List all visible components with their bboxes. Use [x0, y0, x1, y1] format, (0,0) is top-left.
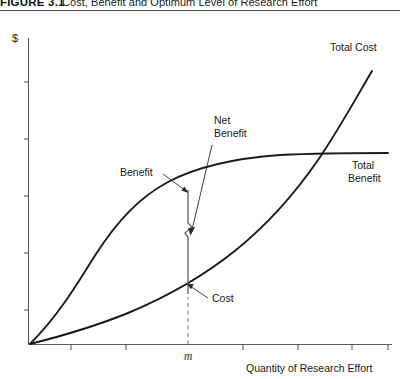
y-axis-ticks: [24, 82, 29, 310]
figure-root: FIGURE 3.1 Cost, Benefit and Optimum Lev…: [0, 0, 400, 379]
cost-label: Cost: [212, 292, 234, 304]
net-benefit-label-line1: Net: [214, 114, 230, 126]
chart-canvas: Benefit Net Benefit Cost Total Cost Tota…: [0, 14, 400, 379]
total-benefit-label-line1: Total: [352, 159, 374, 171]
header-divider: [0, 10, 400, 11]
cost-leader-line: [190, 286, 208, 298]
figure-header: FIGURE 3.1 Cost, Benefit and Optimum Lev…: [0, 0, 400, 14]
total-benefit-curve: [30, 153, 388, 344]
net-benefit-label-line2: Benefit: [214, 127, 247, 139]
optimum-marker-label: m: [184, 350, 192, 362]
x-axis-ticks: [71, 345, 388, 351]
total-cost-curve: [30, 71, 372, 344]
y-axis-label: $: [12, 32, 18, 44]
x-axis-label: Quantity of Research Effort: [246, 362, 373, 374]
chart-svg: Benefit Net Benefit Cost Total Cost Tota…: [0, 14, 400, 379]
figure-number: FIGURE 3.1: [0, 0, 65, 8]
benefit-arrowhead: [182, 187, 189, 194]
net-benefit-leader-line: [192, 145, 212, 230]
net-benefit-bracket: [185, 190, 192, 294]
figure-caption: Cost, Benefit and Optimum Level of Resea…: [62, 0, 317, 8]
benefit-label: Benefit: [120, 166, 153, 178]
total-cost-label: Total Cost: [330, 41, 377, 53]
net-benefit-arrowhead: [188, 227, 195, 236]
total-benefit-label-line2: Benefit: [348, 172, 381, 184]
